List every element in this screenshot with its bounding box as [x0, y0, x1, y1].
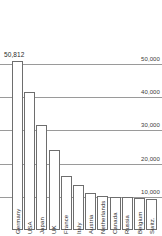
category-label-germany: Germany	[15, 209, 21, 234]
category-label-netherlands: Netherlands	[100, 201, 106, 234]
category-label-uk: UK	[51, 225, 57, 234]
bar-chart: 50,00040,00030,00020,00010,000GermanyUSA…	[0, 0, 162, 236]
axis-tick-label: 40,000	[141, 89, 160, 95]
axis-tick-label: 20,000	[141, 156, 160, 162]
category-label-switz-: Switz.	[149, 217, 155, 234]
category-label-usa: USA	[27, 221, 33, 234]
gridline-50000	[0, 64, 162, 65]
category-label-belgium: Belgium	[137, 212, 143, 234]
category-label-canada: Canada	[112, 212, 118, 234]
category-label-japan: Japan	[39, 217, 45, 234]
data-label-germany: 50,812	[4, 51, 24, 58]
bar-germany	[12, 61, 23, 230]
bar-uk	[49, 150, 60, 230]
axis-tick-label: 50,000	[141, 56, 160, 62]
bar-usa	[24, 92, 35, 230]
axis-tick-label: 10,000	[141, 189, 160, 195]
category-label-austria: Austria	[88, 215, 94, 234]
axis-tick-label: 30,000	[141, 122, 160, 128]
category-label-italy: Italy	[76, 222, 82, 234]
category-label-russia: Russia	[124, 215, 130, 234]
category-label-france: France	[63, 215, 69, 234]
bar-japan	[36, 125, 47, 230]
plot-area: 50,00040,00030,00020,00010,000GermanyUSA…	[0, 0, 162, 236]
